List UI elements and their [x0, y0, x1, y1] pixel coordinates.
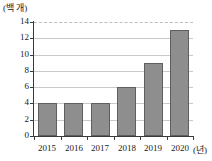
- x-axis-tick-mark: [167, 137, 168, 140]
- x-axis-tick-label: 2018: [114, 143, 140, 153]
- bar-chart: (백 개) 02468101214 2015201620172018201920…: [0, 0, 212, 161]
- x-axis-tick-mark: [34, 137, 35, 140]
- x-axis-unit-label: (년): [193, 143, 207, 156]
- x-axis-tick-mark: [114, 137, 115, 140]
- y-axis-unit-label: (백 개): [3, 1, 27, 14]
- bar: [64, 103, 83, 136]
- gridline: [34, 22, 193, 23]
- bar: [91, 103, 110, 136]
- y-axis-tick-label: 12: [7, 33, 29, 42]
- y-axis-tick-label: 14: [7, 17, 29, 26]
- x-axis-tick-mark: [61, 137, 62, 140]
- y-axis-tick-mark: [30, 71, 34, 72]
- bar: [38, 103, 57, 136]
- y-axis-tick-mark: [30, 38, 34, 39]
- y-axis-tick-mark: [30, 22, 34, 23]
- y-axis-tick-label: 2: [7, 115, 29, 124]
- plot-area: [34, 22, 193, 136]
- bar: [170, 30, 189, 136]
- x-axis-tick-label: 2015: [34, 143, 60, 153]
- x-axis-tick-mark: [140, 137, 141, 140]
- y-axis-tick-label: 0: [7, 131, 29, 140]
- y-axis-tick-mark: [30, 120, 34, 121]
- y-axis-tick-label: 6: [7, 82, 29, 91]
- y-axis-tick-label: 10: [7, 50, 29, 59]
- y-axis-tick-mark: [30, 55, 34, 56]
- x-axis-tick-label: 2016: [61, 143, 87, 153]
- x-axis-tick-label: 2017: [87, 143, 113, 153]
- bar: [144, 63, 163, 136]
- x-axis-tick-label: 2019: [140, 143, 166, 153]
- y-axis-tick-mark: [30, 87, 34, 88]
- x-axis-tick-label: 2020: [167, 143, 193, 153]
- y-axis-tick-label: 4: [7, 98, 29, 107]
- x-axis-tick-mark: [87, 137, 88, 140]
- y-axis-tick-label: 8: [7, 66, 29, 75]
- x-axis-tick-mark: [193, 137, 194, 140]
- y-axis-tick-mark: [30, 103, 34, 104]
- bar: [117, 87, 136, 136]
